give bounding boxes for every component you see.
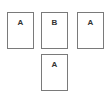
card-label: A	[78, 19, 103, 27]
card-label: A	[8, 19, 33, 27]
card-top-center: B	[41, 12, 68, 49]
card-label: B	[42, 19, 67, 27]
card-label: A	[42, 61, 67, 69]
card-top-right: A	[77, 12, 104, 49]
card-top-left: A	[7, 12, 34, 49]
card-bottom-center: A	[41, 54, 68, 91]
